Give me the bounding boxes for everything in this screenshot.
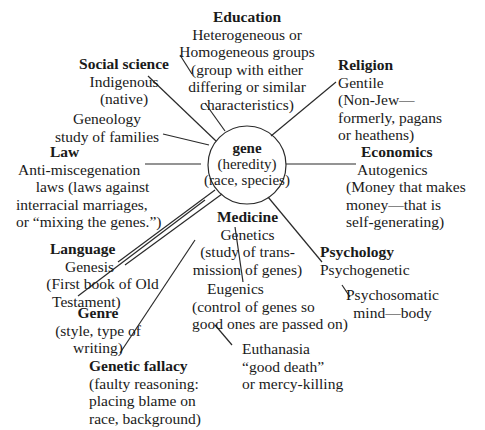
- center-node: gene (heredity) (race, species): [197, 140, 297, 188]
- economics-line: money—that is: [346, 196, 485, 214]
- eugenics-line: (control of genes so: [192, 298, 372, 316]
- economics-line: self-generating): [346, 213, 485, 231]
- language-heading: Language: [40, 240, 165, 258]
- geneology-line: Geneology: [52, 110, 162, 128]
- genre-line: writing): [48, 339, 148, 357]
- social-science-node: Social science Indigenous (native): [78, 55, 170, 108]
- education-line: Heterogeneous or: [172, 26, 322, 44]
- center-line-1: (heredity): [197, 156, 297, 172]
- psychology-line: Psychogenetic: [320, 261, 440, 279]
- center-title: gene: [197, 140, 297, 156]
- education-line: differing or similar: [172, 78, 322, 96]
- law-line: Anti-miscegenation: [10, 161, 175, 179]
- religion-line: or heathens): [338, 126, 468, 144]
- genetic-fallacy-line: race, background): [89, 410, 229, 428]
- economics-node: Economics Autogenics (Money that makes m…: [346, 143, 485, 231]
- eugenics-line: Eugenics: [192, 280, 372, 298]
- religion-line: Gentile: [338, 74, 468, 92]
- economics-line: (Money that makes: [346, 178, 485, 196]
- geneology-node: Geneology study of families: [52, 110, 162, 145]
- law-heading: Law: [10, 143, 175, 161]
- religion-line: formerly, pagans: [338, 109, 468, 127]
- medicine-node: Medicine Genetics (study of trans- missi…: [190, 208, 305, 278]
- language-line: Genesis: [40, 258, 165, 276]
- medicine-line: (study of trans-: [190, 243, 305, 261]
- medicine-heading: Medicine: [190, 208, 305, 226]
- education-line: characteristics): [172, 96, 322, 114]
- religion-line: (Non-Jew—: [338, 91, 468, 109]
- genetic-fallacy-node: Genetic fallacy (faulty reasoning: placi…: [89, 357, 229, 427]
- psychology-heading: Psychology: [320, 243, 440, 261]
- economics-heading: Economics: [346, 143, 485, 161]
- eugenics-line: good ones are passed on): [192, 315, 372, 333]
- social-science-heading: Social science: [78, 55, 170, 73]
- gene-word-web-diagram: gene (heredity) (race, species) Educatio…: [0, 0, 485, 430]
- religion-heading: Religion: [338, 56, 468, 74]
- center-line-2: (race, species): [197, 172, 297, 188]
- religion-node: Religion Gentile (Non-Jew— formerly, pag…: [338, 56, 468, 144]
- eugenics-node: Eugenics (control of genes so good ones …: [192, 280, 372, 333]
- language-node: Language Genesis (First book of Old Test…: [40, 240, 165, 310]
- euthanasia-node: Euthanasia “good death” or mercy-killing: [242, 340, 382, 393]
- genre-line: (style, type of: [48, 322, 148, 340]
- economics-line: Autogenics: [346, 161, 485, 179]
- genre-node: Genre (style, type of writing): [48, 304, 148, 357]
- education-line: (group with either: [172, 61, 322, 79]
- education-line: Homogeneous groups: [172, 43, 322, 61]
- genre-heading: Genre: [48, 304, 148, 322]
- law-node: Law Anti-miscegenation laws (laws agains…: [10, 143, 175, 231]
- euthanasia-line: Euthanasia: [242, 340, 382, 358]
- education-heading: Education: [172, 8, 322, 26]
- education-node: Education Heterogeneous or Homogeneous g…: [172, 8, 322, 113]
- language-line: (First book of Old: [40, 275, 165, 293]
- euthanasia-line: or mercy-killing: [242, 375, 382, 393]
- medicine-line: Genetics: [190, 226, 305, 244]
- law-line: interracial marriages,: [10, 196, 175, 214]
- psychology-node: Psychology Psychogenetic: [320, 243, 440, 278]
- genetic-fallacy-line: (faulty reasoning:: [89, 375, 229, 393]
- genetic-fallacy-heading: Genetic fallacy: [89, 357, 229, 375]
- law-line: laws (laws against: [10, 178, 175, 196]
- genetic-fallacy-line: placing blame on: [89, 392, 229, 410]
- euthanasia-line: “good death”: [242, 358, 382, 376]
- law-line: or “mixing the genes.”): [10, 213, 175, 231]
- social-science-line: Indigenous: [78, 73, 170, 91]
- social-science-line: (native): [78, 90, 170, 108]
- medicine-line: mission of genes): [190, 261, 305, 279]
